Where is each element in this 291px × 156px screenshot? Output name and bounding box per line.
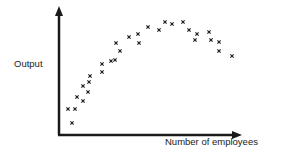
data-point-x-marker-icon <box>113 58 116 61</box>
data-point-x-marker-icon <box>127 35 130 38</box>
data-point-x-marker-icon <box>75 95 78 98</box>
data-point-x-marker-icon <box>66 107 69 110</box>
data-point-x-marker-icon <box>114 41 117 44</box>
data-point-x-marker-icon <box>217 40 220 43</box>
data-point-x-marker-icon <box>207 30 210 33</box>
data-point-x-marker-icon <box>100 70 103 73</box>
data-points <box>66 20 233 124</box>
data-point-x-marker-icon <box>73 107 76 110</box>
data-point-x-marker-icon <box>137 41 140 44</box>
data-point-x-marker-icon <box>181 20 184 23</box>
data-point-x-marker-icon <box>170 22 173 25</box>
data-point-x-marker-icon <box>230 54 233 57</box>
scatter-chart <box>0 0 291 156</box>
y-axis <box>55 6 63 135</box>
data-point-x-marker-icon <box>100 62 103 65</box>
data-point-x-marker-icon <box>187 28 190 31</box>
data-point-x-marker-icon <box>193 38 196 41</box>
data-point-x-marker-icon <box>87 80 90 83</box>
data-point-x-marker-icon <box>136 32 139 35</box>
data-point-x-marker-icon <box>81 99 84 102</box>
data-point-x-marker-icon <box>70 121 73 124</box>
data-point-x-marker-icon <box>118 49 121 52</box>
y-axis-arrow-icon <box>55 6 63 16</box>
data-point-x-marker-icon <box>88 74 91 77</box>
data-point-x-marker-icon <box>86 90 89 93</box>
data-point-x-marker-icon <box>109 59 112 62</box>
data-point-x-marker-icon <box>217 49 220 52</box>
data-point-x-marker-icon <box>163 20 166 23</box>
data-point-x-marker-icon <box>157 28 160 31</box>
data-point-x-marker-icon <box>81 84 84 87</box>
data-point-x-marker-icon <box>195 32 198 35</box>
y-axis-label: Output <box>14 58 43 69</box>
data-point-x-marker-icon <box>209 38 212 41</box>
data-point-x-marker-icon <box>146 25 149 28</box>
x-axis-label: Number of employees <box>165 136 258 147</box>
